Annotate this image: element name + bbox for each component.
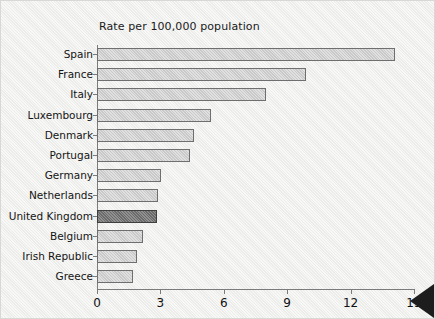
bar-row: Luxembourg xyxy=(1,107,435,126)
bar xyxy=(97,230,143,243)
bar xyxy=(97,109,211,122)
category-label: Luxembourg xyxy=(28,109,93,121)
bar-row: United Kingdom xyxy=(1,208,435,227)
x-tick xyxy=(224,289,225,294)
category-label: United Kingdom xyxy=(9,210,93,222)
category-label: Italy xyxy=(70,88,93,100)
category-label: Belgium xyxy=(50,230,93,242)
category-label: Denmark xyxy=(45,129,93,141)
x-tick-label: 9 xyxy=(283,296,291,310)
category-label: France xyxy=(58,68,93,80)
bar-row: Spain xyxy=(1,46,435,65)
bar-row: France xyxy=(1,66,435,85)
bar-row: Portugal xyxy=(1,147,435,166)
bar xyxy=(97,270,133,283)
category-label: Germany xyxy=(45,169,93,181)
bar xyxy=(97,129,194,142)
bar xyxy=(97,250,137,263)
bar xyxy=(97,169,161,182)
category-label: Netherlands xyxy=(29,189,93,201)
bar xyxy=(97,189,158,202)
x-tick-label: 0 xyxy=(93,296,101,310)
bar-highlight xyxy=(97,210,157,223)
bar-row: Netherlands xyxy=(1,187,435,206)
bar-row: Italy xyxy=(1,86,435,105)
bar xyxy=(97,48,395,61)
x-tick-label: 3 xyxy=(157,296,165,310)
bar xyxy=(97,68,306,81)
category-label: Greece xyxy=(56,270,93,282)
category-label: Irish Republic xyxy=(22,250,93,262)
x-axis-line xyxy=(97,289,414,290)
bar-row: Germany xyxy=(1,167,435,186)
x-tick xyxy=(287,289,288,294)
x-tick xyxy=(160,289,161,294)
bar xyxy=(97,88,266,101)
x-tick-label: 12 xyxy=(343,296,358,310)
bar-row: Greece xyxy=(1,268,435,287)
bar-row: Belgium xyxy=(1,228,435,247)
left-pointing-triangle-icon xyxy=(410,284,434,318)
bar-row: Irish Republic xyxy=(1,248,435,267)
bar-row: Denmark xyxy=(1,127,435,146)
category-label: Spain xyxy=(64,48,93,60)
x-tick-label: 6 xyxy=(220,296,228,310)
x-tick xyxy=(97,289,98,294)
bar xyxy=(97,149,190,162)
category-label: Portugal xyxy=(50,149,94,161)
chart-figure: Rate per 100,000 population 03691215 Spa… xyxy=(0,0,435,319)
plot-area: 03691215 SpainFranceItalyLuxembourgDenma… xyxy=(1,1,435,319)
x-tick xyxy=(351,289,352,294)
